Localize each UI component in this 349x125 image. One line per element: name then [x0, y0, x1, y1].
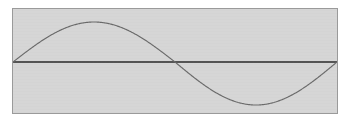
plot-svg: [13, 9, 337, 113]
figure-root: [0, 0, 349, 125]
sine-wave-path: [13, 22, 337, 105]
plot-panel: [12, 8, 338, 114]
